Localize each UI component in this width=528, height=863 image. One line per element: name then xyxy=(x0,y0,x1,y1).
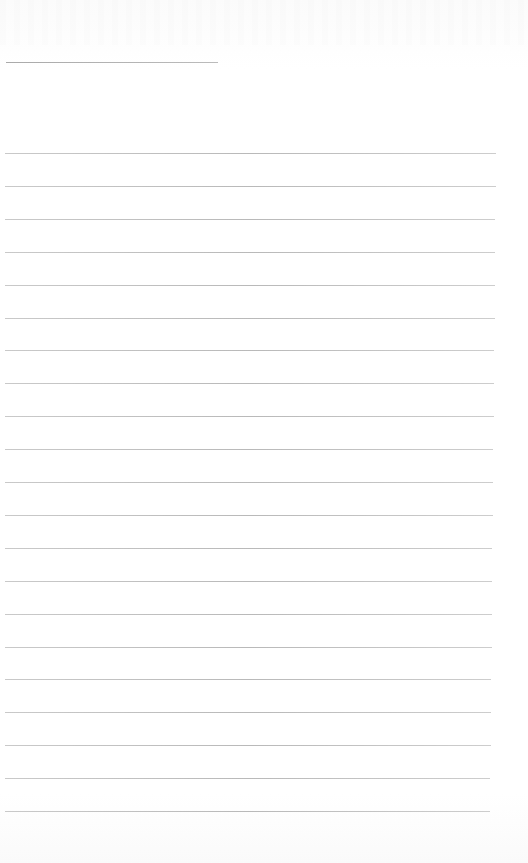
header-rule xyxy=(6,62,218,63)
ruled-line xyxy=(5,153,496,154)
ruled-line xyxy=(5,285,495,286)
ruled-line xyxy=(5,482,493,483)
show-through-text xyxy=(0,0,528,45)
ruled-line xyxy=(5,581,492,582)
ruled-line xyxy=(5,778,490,779)
ruled-line xyxy=(5,647,492,648)
ruled-line xyxy=(5,219,495,220)
ruled-line xyxy=(5,712,491,713)
ruled-line xyxy=(5,252,495,253)
ruled-line xyxy=(5,548,492,549)
ruled-line xyxy=(5,186,496,187)
ruled-line xyxy=(5,745,491,746)
notebook-page xyxy=(0,0,528,863)
ruled-line xyxy=(5,515,493,516)
ruled-line xyxy=(5,416,494,417)
ruled-line xyxy=(5,679,491,680)
ruled-line xyxy=(5,449,493,450)
ruled-line xyxy=(5,318,495,319)
ruled-line xyxy=(5,350,494,351)
ruled-line xyxy=(5,811,490,812)
ruled-line xyxy=(5,614,492,615)
ruled-line xyxy=(5,383,494,384)
